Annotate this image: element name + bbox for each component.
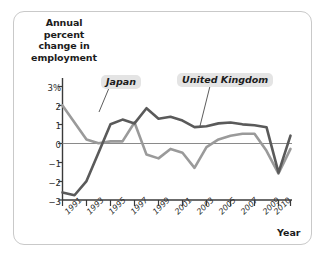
leader-line-united-kingdom bbox=[200, 86, 210, 126]
callout-label-united-kingdom: United Kingdom bbox=[177, 73, 273, 87]
leader-line-japan bbox=[99, 88, 109, 112]
series-line-japan bbox=[63, 105, 291, 173]
chart-plot-area bbox=[0, 0, 325, 257]
chart-figure: Annual percent change in employment Year… bbox=[0, 0, 325, 257]
callout-label-japan: Japan bbox=[101, 75, 141, 89]
x-axis-ticks bbox=[63, 200, 291, 206]
